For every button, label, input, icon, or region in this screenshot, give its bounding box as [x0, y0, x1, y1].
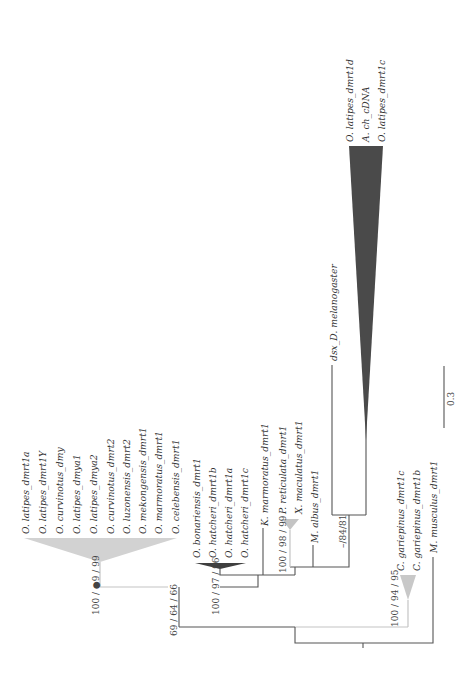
taxon-label: O. latipes_dmrt1a	[20, 451, 32, 534]
taxon-label: O. latipes_dmya2	[88, 454, 100, 534]
phylogenetic-tree: O. latipes_dmrt1a O. latipes_dmrt1Y O. c…	[0, 0, 472, 700]
taxon-label: O. curvinotus_dmy	[54, 447, 66, 534]
taxon-label: P. reticulata_dmrt1	[277, 426, 289, 515]
taxon-label: O. hatcheri_dmrt1b	[207, 467, 219, 558]
branch	[220, 569, 258, 575]
taxon-label: O. latipes_dmrt1c	[376, 60, 388, 142]
support-value: –/84/81	[338, 515, 348, 548]
support-value: 69 / 64 / 66	[169, 584, 179, 636]
branch	[220, 575, 258, 587]
taxon-label: O. latipes_dmrt1d	[344, 59, 356, 142]
taxon-label: O. bonariensis_dmrt1	[191, 458, 203, 558]
clade-triangle-medaka-dmrt1	[349, 146, 383, 440]
taxon-label: M. albus_dmrt1	[309, 470, 321, 544]
taxon-label: K. marmoratus_dmrt1	[259, 423, 271, 527]
taxon-label: M. musculus_dmrt1	[428, 461, 440, 554]
support-value: 100 / 97 / 96	[211, 557, 221, 615]
scale-bar-label: 0.3	[446, 391, 456, 406]
support-value: 100 / 98 / 99	[278, 515, 288, 573]
hatcheri-labels: O. bonariensis_dmrt1 O. hatcheri_dmrt1b …	[191, 458, 251, 558]
taxon-label: O. latipes_dmrt1Y	[37, 450, 49, 534]
taxon-label: A. ch_cDNA	[360, 86, 372, 143]
support-value: 100 / ●9 / 99	[91, 555, 101, 615]
taxon-label: C. gariepinus_dmrt1b	[411, 470, 423, 571]
taxon-label: C. gariepinus_dmrt1c	[395, 471, 407, 571]
oryzias-labels: O. latipes_dmrt1a O. latipes_dmrt1Y O. c…	[20, 427, 182, 534]
taxon-label: O. marmoratus_dmrt1	[153, 431, 165, 534]
taxon-label: O. hatcheri_dmrt1c	[239, 468, 251, 558]
support-value: 100 / 94 / 95	[390, 569, 400, 627]
taxon-label: O. luzonensis_dmrt2	[121, 439, 133, 534]
taxon-label: O. mekongensis_dmrt1	[137, 427, 149, 534]
taxon-label-dsx: dsx_D. melanogaster	[328, 264, 340, 361]
taxon-label: O. celebensis_dmrt1	[170, 439, 182, 534]
taxon-label: O. hatcheri_dmrt1a	[223, 468, 235, 558]
clade-triangle-catfish	[400, 575, 416, 600]
taxon-label: X. maculatus_dmrt1	[293, 421, 305, 516]
taxon-label: O. latipes_dmya1	[71, 454, 83, 534]
taxon-label: O. curvinotus_dmrt2	[105, 439, 117, 534]
